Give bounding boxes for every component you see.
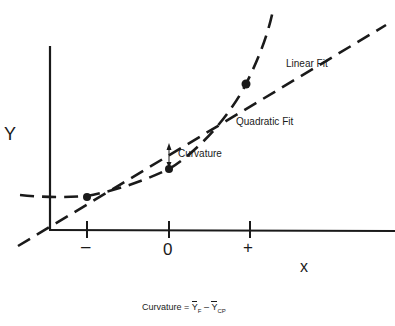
point-center xyxy=(165,165,173,173)
formula-term-ycp: Y xyxy=(211,302,217,312)
point-factorial-high xyxy=(242,80,251,89)
arrow-head-up-icon xyxy=(167,143,172,150)
formula-y-bar-f: Y xyxy=(192,302,198,312)
x-axis-label: x xyxy=(300,258,308,276)
tick-label-plus: + xyxy=(243,238,253,258)
formula-minus: – xyxy=(201,302,211,312)
linear-fit-line xyxy=(18,25,386,246)
diagram-canvas xyxy=(0,0,395,326)
x-axis xyxy=(49,230,395,231)
formula-y-bar-cp: Y xyxy=(211,302,217,312)
tick-label-minus: – xyxy=(81,237,90,257)
curvature-formula: Curvature = YF – YCP xyxy=(142,302,226,314)
curvature-label: Curvature xyxy=(178,148,222,159)
quadratic-fit-label: Quadratic Fit xyxy=(236,116,293,127)
formula-term-yf: Y xyxy=(192,302,198,312)
y-axis-label: Y xyxy=(4,124,16,145)
tick-label-zero: 0 xyxy=(163,240,172,260)
formula-sub-cp: CP xyxy=(218,308,226,314)
linear-fit-label: Linear Fit xyxy=(286,58,328,69)
quadratic-fit-curve xyxy=(20,10,273,197)
formula-prefix: Curvature = xyxy=(142,302,192,312)
point-factorial-low xyxy=(83,193,91,201)
